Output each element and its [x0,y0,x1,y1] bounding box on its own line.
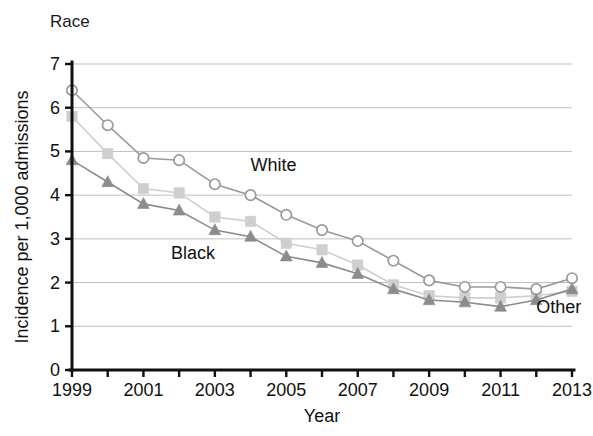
x-tick-label-2013: 2013 [552,380,592,400]
chart-container: Race 19992001200320052007200920112013 01… [0,0,593,436]
y-tick-label-1: 1 [50,316,60,336]
y-axis-title: Incidence per 1,000 admissions [12,90,32,343]
data-point-white-2002 [174,155,184,165]
data-point-black-2006 [317,245,327,255]
data-point-white-2011 [495,282,505,292]
chart-title: Race [50,12,90,31]
x-tick-label-2007: 2007 [338,380,378,400]
x-tick-label-2009: 2009 [409,380,449,400]
data-point-black-2001 [138,183,148,193]
y-tick-label-6: 6 [50,98,60,118]
x-axis-title: Year [304,406,340,426]
data-point-black-2005 [281,238,291,248]
data-point-black-2002 [174,188,184,198]
y-tick-label-4: 4 [50,185,60,205]
data-point-white-2008 [388,256,398,266]
data-point-white-2006 [317,225,327,235]
data-point-white-2001 [138,153,148,163]
data-point-white-2013 [567,273,577,283]
data-point-white-2009 [424,275,434,285]
x-tick-label-2001: 2001 [123,380,163,400]
x-tick-label-1999: 1999 [52,380,92,400]
y-tick-label-2: 2 [50,273,60,293]
y-tick-label-5: 5 [50,141,60,161]
data-point-white-2003 [210,179,220,189]
x-tick-label-2011: 2011 [481,380,520,400]
data-point-black-2004 [245,216,255,226]
data-point-white-2004 [245,190,255,200]
y-tick-label-7: 7 [50,54,60,74]
data-point-white-2007 [353,236,363,246]
data-point-white-2010 [460,282,470,292]
x-tick-label-2003: 2003 [195,380,235,400]
y-tick-label-0: 0 [50,360,60,380]
race-incidence-line-chart: Race 19992001200320052007200920112013 01… [0,0,593,436]
data-point-black-2000 [103,148,113,158]
x-tick-label-2005: 2005 [266,380,306,400]
data-point-white-2012 [531,284,541,294]
data-point-white-2005 [281,210,291,220]
y-tick-label-3: 3 [50,229,60,249]
series-label-other: Other [536,297,581,317]
series-label-white: White [251,155,297,175]
series-label-black: Black [171,243,216,263]
data-point-white-2000 [103,120,113,130]
data-point-black-2003 [210,212,220,222]
